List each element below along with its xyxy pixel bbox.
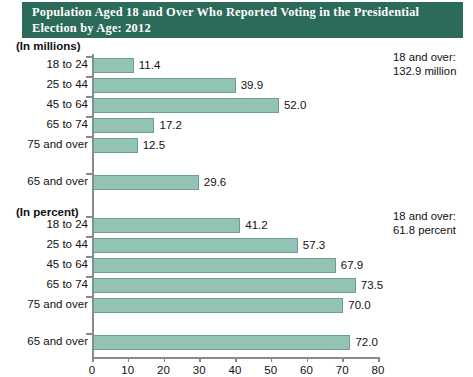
- x-axis-tick: [164, 357, 166, 362]
- bar: [93, 98, 279, 113]
- bar-category-label: 45 to 64: [0, 98, 88, 110]
- bar-value-label: 29.6: [204, 176, 226, 188]
- table-row: 45 to 6452.0: [0, 96, 473, 116]
- bar: [93, 218, 240, 233]
- bar-value-label: 39.9: [241, 79, 263, 91]
- bar-category-label: 75 and over: [0, 298, 88, 310]
- bar-value-label: 11.4: [139, 59, 161, 71]
- table-row: 45 to 6467.9: [0, 256, 473, 276]
- bar: [93, 175, 199, 190]
- bar-value-label: 52.0: [284, 99, 306, 111]
- x-axis-tick-label: 70: [336, 364, 349, 376]
- bar-value-label: 73.5: [361, 279, 383, 291]
- table-row: 65 to 7473.5: [0, 276, 473, 296]
- bar-category-label: 65 to 74: [0, 278, 88, 290]
- x-axis-tick-label: 0: [89, 364, 95, 376]
- bar: [93, 78, 236, 93]
- x-axis-tick-label: 20: [157, 364, 170, 376]
- section-header-millions: (In millions): [16, 40, 81, 52]
- bar-category-label: 25 to 44: [0, 238, 88, 250]
- bar-value-label: 70.0: [348, 299, 370, 311]
- x-axis-tick: [235, 357, 237, 362]
- bar: [93, 58, 134, 73]
- chart-title-banner: Population Aged 18 and Over Who Reported…: [22, 2, 463, 38]
- x-axis-tick-label: 40: [229, 364, 242, 376]
- x-axis-tick-label: 50: [264, 364, 277, 376]
- bar: [93, 118, 154, 133]
- table-row: 75 and over12.5: [0, 136, 473, 156]
- page-title-line-1: Population Aged 18 and Over Who Reported…: [32, 5, 455, 21]
- page-title-line-2: Election by Age: 2012: [32, 21, 455, 37]
- bar-value-label: 17.2: [159, 119, 181, 131]
- table-row: 18 to 2441.2: [0, 216, 473, 236]
- bar: [93, 335, 350, 350]
- table-row: 65 and over29.6: [0, 173, 473, 193]
- table-row: 75 and over70.0: [0, 296, 473, 316]
- x-axis-tick: [128, 357, 130, 362]
- x-axis-tick-label: 30: [193, 364, 206, 376]
- bar: [93, 278, 356, 293]
- bar-value-label: 72.0: [355, 336, 377, 348]
- bar-category-label: 65 to 74: [0, 118, 88, 130]
- bar: [93, 298, 343, 313]
- table-row: 65 to 7417.2: [0, 116, 473, 136]
- bar-category-label: 25 to 44: [0, 78, 88, 90]
- bar-category-label: 65 and over: [0, 335, 88, 347]
- x-axis-tick: [271, 357, 273, 362]
- x-axis-tick: [378, 357, 380, 362]
- bar-value-label: 12.5: [143, 139, 165, 151]
- table-row: 65 and over72.0: [0, 333, 473, 353]
- bar-value-label: 67.9: [341, 259, 363, 271]
- table-row: 25 to 4439.9: [0, 76, 473, 96]
- x-axis-tick: [92, 357, 94, 362]
- chart-plot-area: (In millions) (In percent) 18 and over: …: [0, 40, 473, 377]
- table-row: 25 to 4457.3: [0, 236, 473, 256]
- x-axis-tick: [342, 357, 344, 362]
- bar-category-label: 18 to 24: [0, 58, 88, 70]
- x-axis-tick: [199, 357, 201, 362]
- bar-category-label: 65 and over: [0, 175, 88, 187]
- x-axis-tick-label: 10: [121, 364, 134, 376]
- bar-category-label: 18 to 24: [0, 218, 88, 230]
- table-row: 18 to 2411.4: [0, 56, 473, 76]
- bar: [93, 238, 298, 253]
- bar-category-label: 75 and over: [0, 138, 88, 150]
- bar: [93, 138, 138, 153]
- x-axis-tick-label: 80: [372, 364, 385, 376]
- bar-value-label: 41.2: [245, 219, 267, 231]
- x-axis-tick: [307, 357, 309, 362]
- bar: [93, 258, 336, 273]
- bar-category-label: 45 to 64: [0, 258, 88, 270]
- x-axis-tick-label: 60: [300, 364, 313, 376]
- bar-value-label: 57.3: [303, 239, 325, 251]
